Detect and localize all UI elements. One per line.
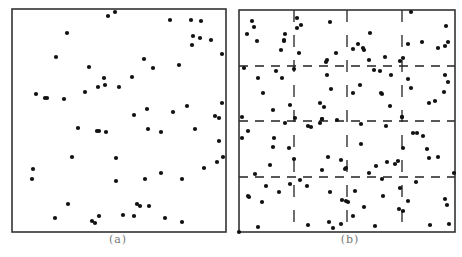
data-point <box>443 73 447 77</box>
data-point <box>246 129 250 133</box>
data-point <box>351 214 355 218</box>
data-point <box>163 216 167 220</box>
data-point <box>102 76 106 80</box>
data-point <box>388 104 392 108</box>
data-point <box>256 225 260 229</box>
data-point <box>97 214 101 218</box>
data-point <box>220 52 224 56</box>
data-point <box>378 69 382 73</box>
data-point <box>406 199 410 203</box>
data-point <box>420 40 424 44</box>
data-point <box>328 20 332 24</box>
data-point <box>106 14 110 18</box>
data-point <box>240 115 244 119</box>
data-point <box>76 126 80 130</box>
data-point <box>373 224 377 228</box>
data-point <box>151 66 155 70</box>
data-point <box>253 172 257 176</box>
panel-border <box>12 9 226 232</box>
data-point <box>279 48 283 52</box>
data-point <box>421 134 425 138</box>
data-point <box>374 164 378 168</box>
data-point <box>138 204 142 208</box>
data-point <box>380 177 384 181</box>
data-point <box>202 166 206 170</box>
data-point <box>385 160 389 164</box>
data-point <box>220 101 224 105</box>
data-point <box>250 19 254 23</box>
data-point <box>287 146 291 150</box>
data-point <box>96 85 100 89</box>
data-point <box>62 97 66 101</box>
data-point <box>389 73 393 77</box>
data-point <box>53 216 57 220</box>
data-point <box>245 32 249 36</box>
data-point <box>339 222 343 226</box>
data-point <box>117 85 121 89</box>
data-point <box>146 127 150 131</box>
data-point <box>104 130 108 134</box>
data-point <box>443 197 447 201</box>
data-point <box>177 63 181 67</box>
data-point <box>436 155 440 159</box>
data-point <box>260 200 264 204</box>
data-point <box>130 75 134 79</box>
data-point <box>247 195 251 199</box>
data-point <box>362 205 366 209</box>
data-point <box>185 104 189 108</box>
data-point <box>353 189 357 193</box>
data-point <box>217 139 221 143</box>
data-point <box>414 180 418 184</box>
data-point <box>180 220 184 224</box>
data-point <box>34 92 38 96</box>
data-point <box>372 68 376 72</box>
data-point <box>297 51 301 55</box>
data-point <box>425 147 429 151</box>
data-point <box>306 223 310 227</box>
data-point <box>447 222 451 226</box>
data-point <box>191 34 195 38</box>
data-point <box>340 198 344 202</box>
data-point <box>295 16 299 20</box>
data-point <box>54 55 58 59</box>
data-point <box>240 136 244 140</box>
data-point <box>288 103 292 107</box>
data-point <box>132 113 136 117</box>
caption-b: (b) <box>341 233 360 246</box>
data-point <box>295 26 299 30</box>
data-point <box>113 10 117 14</box>
data-point <box>368 31 372 35</box>
data-point <box>367 171 371 175</box>
data-point <box>66 202 70 206</box>
data-point <box>384 124 388 128</box>
data-point <box>298 178 302 182</box>
data-point <box>292 67 296 71</box>
data-point <box>358 83 362 87</box>
data-point <box>409 10 413 14</box>
data-point <box>397 207 401 211</box>
data-point <box>103 83 107 87</box>
data-point <box>329 87 333 91</box>
point-distribution-figure <box>0 0 462 257</box>
data-point <box>121 213 125 217</box>
data-point <box>427 101 431 105</box>
data-point <box>261 91 265 95</box>
data-point <box>381 194 385 198</box>
data-point <box>268 163 272 167</box>
data-point <box>327 220 331 224</box>
data-point <box>351 47 355 51</box>
data-point <box>436 46 440 50</box>
data-point <box>401 56 405 60</box>
data-point <box>400 115 404 119</box>
data-point <box>217 116 221 120</box>
data-point <box>428 223 432 227</box>
data-point <box>209 38 213 42</box>
data-point <box>442 90 446 94</box>
data-point <box>221 155 225 159</box>
data-point <box>446 80 450 84</box>
data-point <box>401 209 405 213</box>
data-point <box>83 90 87 94</box>
data-point <box>328 190 332 194</box>
data-point <box>282 39 286 43</box>
caption-a: (a) <box>109 233 127 246</box>
